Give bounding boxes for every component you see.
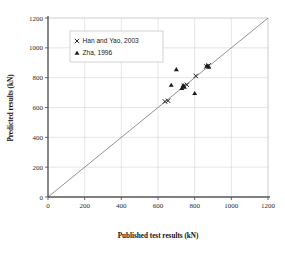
y-tick-label: 600 — [33, 104, 44, 112]
x-tick-label: 1000 — [224, 202, 239, 210]
x-tick-label: 400 — [116, 202, 127, 210]
legend-box — [70, 31, 163, 62]
y-tick-label: 400 — [33, 134, 44, 142]
x-tick-label: 600 — [153, 202, 164, 210]
legend-label: Zha, 1996 — [83, 49, 113, 56]
y-tick-label: 0 — [40, 194, 44, 202]
y-tick-label: 1000 — [29, 44, 44, 52]
scatter-plot: 020040060080010001200 020040060080010001… — [0, 0, 285, 254]
x-tick-label: 200 — [79, 202, 90, 210]
x-tick-label: 1200 — [261, 202, 276, 210]
y-axis-title: Predicted results (kN) — [7, 74, 15, 142]
chart-figure: 020040060080010001200 020040060080010001… — [0, 0, 285, 254]
chart-legend: Han and Yao, 2003Zha, 1996 — [70, 31, 163, 62]
y-tick-label: 1200 — [29, 15, 44, 23]
y-tick-label: 200 — [33, 164, 44, 172]
x-axis-title: Published test results (kN) — [118, 232, 199, 240]
x-tick-label: 0 — [46, 202, 50, 210]
y-tick-label: 800 — [33, 74, 44, 82]
legend-label: Han and Yao, 2003 — [83, 37, 140, 44]
x-tick-label: 800 — [189, 202, 200, 210]
